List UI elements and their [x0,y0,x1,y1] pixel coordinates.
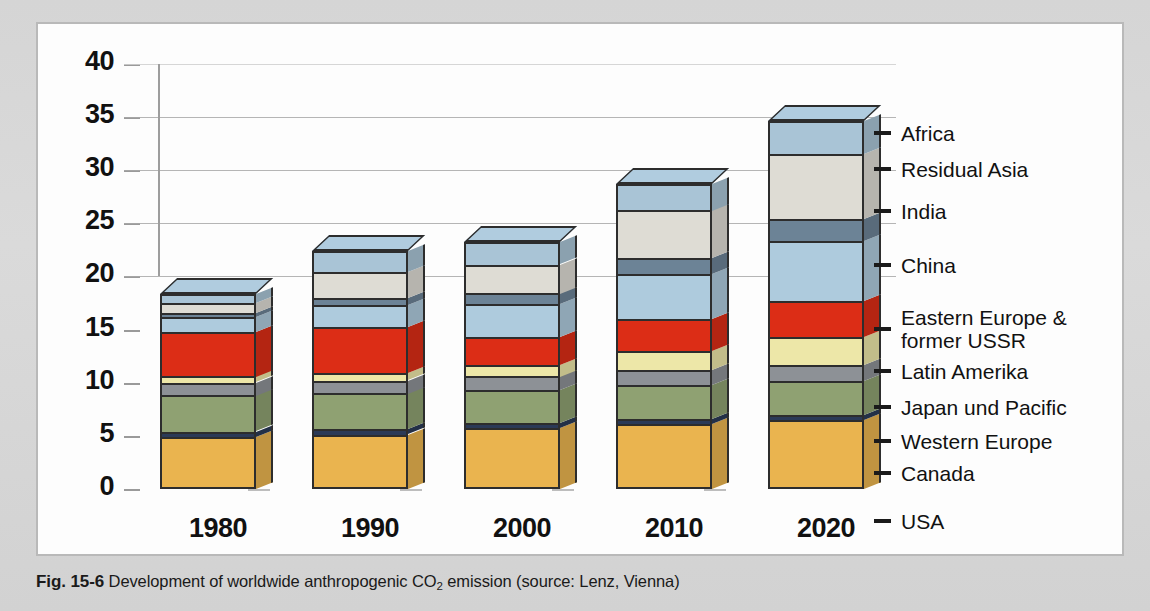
bar-segment[interactable] [312,435,408,489]
legend-leader-dash [874,209,891,213]
bar-segment[interactable] [312,327,408,373]
bar-segment[interactable] [464,428,560,489]
y-axis-tick-label: 30 [52,152,114,183]
bar-segment[interactable] [312,393,408,429]
bar-segment[interactable] [160,303,256,313]
caption-text-after: emission (source: Lenz, Vienna) [443,572,680,590]
bar-segment[interactable] [464,390,560,423]
bar-segment[interactable] [160,432,256,437]
bar-segment[interactable] [616,258,712,274]
bar-segment[interactable] [464,304,560,337]
legend-item-label: India [901,200,947,223]
bar-segment-side-face [712,312,729,351]
bar-segment[interactable] [312,373,408,380]
bar-column-1990[interactable] [312,24,425,491]
legend-leader-dash [874,405,891,409]
bar-segment[interactable] [616,319,712,351]
bar-column-top-face [616,168,729,184]
bar-segment[interactable] [616,424,712,489]
bar-segment[interactable] [464,293,560,304]
caption-subscript: 2 [436,580,442,592]
legend-leader-dash [874,471,891,475]
bar-segment[interactable] [464,423,560,428]
bar-segment[interactable] [160,383,256,396]
bar-segment[interactable] [616,274,712,319]
bar-segment[interactable] [768,420,864,489]
bar-segment[interactable] [768,381,864,415]
bar-segment[interactable] [616,210,712,258]
bar-column-2010[interactable] [616,24,729,491]
bar-column-2000[interactable] [464,24,577,491]
y-axis-tick-mark [124,330,140,332]
bar-segment[interactable] [768,301,864,337]
bar-segment[interactable] [768,241,864,301]
bar-segment[interactable] [768,415,864,420]
bar-column-1980[interactable] [160,24,273,491]
bar-column-top-face [464,226,577,242]
bar-segment[interactable] [160,437,256,489]
bar-segment[interactable] [464,376,560,390]
bar-segment-side-face [256,325,273,377]
bar-segment[interactable] [312,305,408,327]
chart-legend: AfricaResidual AsiaIndiaChinaEastern Eur… [874,110,1124,510]
bar-segment[interactable] [160,376,256,382]
bar-segment[interactable] [160,313,256,317]
x-axis-tick-label: 2000 [452,513,592,544]
bar-column-top-face [312,235,425,251]
legend-leader-dash [874,327,891,331]
y-axis-tick-label: 5 [52,418,114,449]
bar-segment-side-face [560,422,577,489]
figure-caption: Fig. 15-6 Development of worldwide anthr… [36,572,1126,592]
bar-segment-side-face [712,378,729,419]
bar-segment[interactable] [312,251,408,272]
chart-plot-area: 0510152025303540 19801990200020102020 Af… [38,24,1126,558]
x-axis-tick-label: 1990 [300,513,440,544]
y-axis-tick-mark [124,383,140,385]
x-axis-tick-label: 2020 [756,513,896,544]
bar-segment[interactable] [312,272,408,298]
legend-item-label: Residual Asia [901,158,1028,181]
y-axis-tick-mark [124,436,140,438]
bar-segment[interactable] [768,365,864,381]
bar-segment[interactable] [464,365,560,377]
y-axis-tick-label: 40 [52,46,114,77]
bar-segment-side-face [560,297,577,337]
page-background: 0510152025303540 19801990200020102020 Af… [0,0,1150,611]
bar-segment[interactable] [312,381,408,394]
legend-leader-dash [874,263,891,267]
bar-segment-side-face [560,383,577,423]
bar-segment[interactable] [312,429,408,434]
legend-item-label: Canada [901,462,975,485]
bar-segment[interactable] [616,351,712,370]
bar-segment[interactable] [312,298,408,305]
bar-segment-side-face [408,321,425,374]
bar-segment-side-face [256,389,273,432]
bar-segment[interactable] [464,265,560,294]
bar-segment[interactable] [160,294,256,303]
bar-segment[interactable] [616,370,712,385]
legend-leader-dash [874,369,891,373]
bar-segment[interactable] [768,219,864,241]
y-axis-tick-label: 35 [52,99,114,130]
bar-segment[interactable] [616,385,712,419]
caption-figure-number: Fig. 15-6 [36,572,104,591]
bar-segment[interactable] [768,121,864,154]
bar-segment[interactable] [464,337,560,365]
bar-segment[interactable] [768,337,864,365]
bar-segment[interactable] [464,242,560,264]
legend-leader-dash [874,167,891,171]
bar-segment-side-face [408,428,425,489]
bar-column-2020[interactable] [768,24,881,491]
bar-segment[interactable] [160,317,256,332]
caption-text-before: Development of worldwide anthropogenic C… [109,572,437,590]
bar-segment[interactable] [616,184,712,211]
bar-segment[interactable] [160,395,256,431]
y-axis-tick-label: 0 [52,471,114,502]
x-axis-tick-label: 1980 [148,513,288,544]
bar-segment[interactable] [616,419,712,424]
bar-segment[interactable] [768,154,864,219]
bar-segment[interactable] [160,332,256,377]
legend-item-label: Western Europe [901,430,1052,453]
legend-leader-dash [874,131,891,135]
bar-segment-side-face [408,386,425,429]
